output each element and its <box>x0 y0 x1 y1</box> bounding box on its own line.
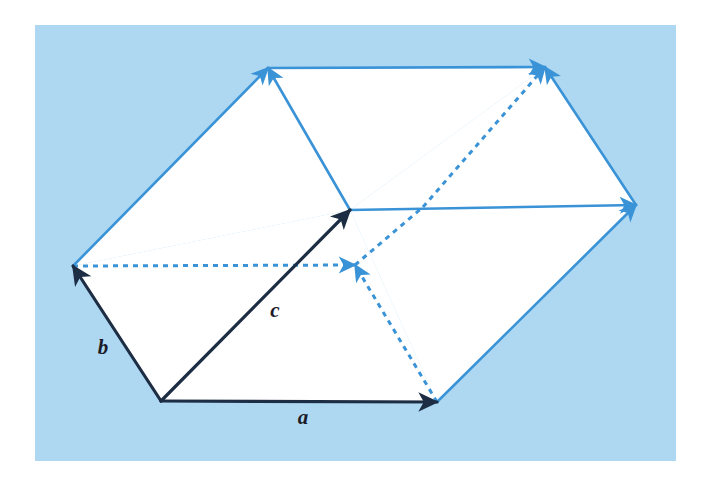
vector-label-a: a <box>298 405 309 429</box>
vector-a <box>161 401 437 402</box>
vector-label-c: c <box>270 298 280 322</box>
edge-topleft-to-topright <box>268 67 545 68</box>
vector-label-b: b <box>98 335 109 359</box>
vector-diagram-svg: abc <box>0 0 712 488</box>
figure-root: abc <box>0 0 712 488</box>
